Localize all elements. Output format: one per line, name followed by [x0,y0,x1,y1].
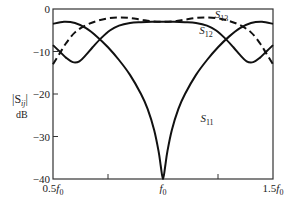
y-axis-title: |Sij| [12,92,28,108]
x-tick-label: 0.5f0 [43,182,64,197]
y-tick-label: 0 [45,3,51,15]
y-tick-label: −10 [33,46,51,58]
series-s13-label: S13 [215,8,229,23]
y-axis-label: |Sij| dB [12,92,28,120]
y-axis-unit: dB [16,109,28,120]
x-tick-label: 1.5f0 [263,182,284,197]
x-tick-label: f0 [159,182,166,197]
y-axis-ticks: 0−10−20−30−40 [33,3,58,185]
series-labels: S11S12S13 [199,8,228,126]
data-series [53,17,273,179]
plot-frame [53,9,273,179]
series-s11-line [53,22,273,179]
s-parameter-chart: 0−10−20−30−40 0.5f0f01.5f0 S11S12S13 |Si… [0,0,288,204]
series-s13-line [53,17,273,64]
y-tick-label: −30 [33,131,51,143]
y-tick-label: −20 [33,88,51,100]
plot-border [53,9,273,179]
series-s11-label: S11 [200,112,213,127]
